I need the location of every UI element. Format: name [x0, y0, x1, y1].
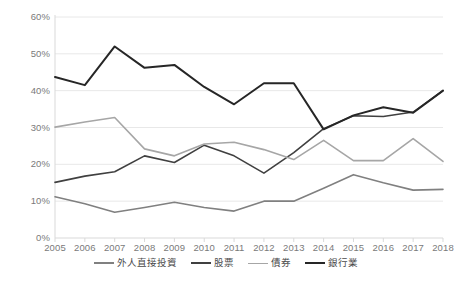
- x-axis-tick-label: 2012: [253, 241, 275, 255]
- y-axis-tick-label: 50%: [4, 49, 50, 59]
- chart-legend: 外人直接投資股票債券銀行業: [0, 255, 451, 271]
- legend-label: 外人直接投資: [117, 257, 177, 269]
- bottom-caption: [2, 272, 302, 282]
- x-axis-tick-label: 2006: [74, 241, 96, 255]
- x-axis-tick-label: 2015: [343, 241, 365, 255]
- y-axis-tick-label: 40%: [4, 86, 50, 96]
- x-axis-tick-label: 2008: [134, 241, 156, 255]
- x-axis-tick-label: 2013: [283, 241, 305, 255]
- series-line-1: [55, 91, 443, 183]
- legend-item-1[interactable]: 股票: [191, 257, 234, 269]
- y-axis-tick-label: 60%: [4, 12, 50, 22]
- x-axis-tick-label: 2018: [432, 241, 454, 255]
- x-axis-tick-label: 2017: [402, 241, 424, 255]
- series-line-0: [55, 175, 443, 213]
- legend-label: 股票: [214, 257, 234, 269]
- x-axis-tick-label: 2014: [313, 241, 335, 255]
- y-axis-tick-label: 20%: [4, 159, 50, 169]
- legend-item-0[interactable]: 外人直接投資: [94, 257, 177, 269]
- legend-item-3[interactable]: 銀行業: [305, 257, 358, 269]
- legend-label: 銀行業: [328, 257, 358, 269]
- x-axis-tick-label: 2010: [193, 241, 215, 255]
- legend-swatch-icon: [94, 262, 114, 264]
- x-axis-tick-label: 2007: [104, 241, 126, 255]
- x-axis-tick-label: 2005: [44, 241, 66, 255]
- legend-item-2[interactable]: 債券: [248, 257, 291, 269]
- legend-label: 債券: [271, 257, 291, 269]
- x-axis-tick-label: 2011: [224, 241, 245, 255]
- legend-swatch-icon: [248, 263, 268, 264]
- y-axis-tick-label: 30%: [4, 123, 50, 133]
- legend-swatch-icon: [191, 262, 211, 264]
- plot-area: [0, 0, 451, 245]
- y-axis-tick-labels: 60%50%40%30%20%10%0%: [0, 0, 50, 245]
- x-axis-tick-label: 2016: [373, 241, 395, 255]
- x-axis-tick-label: 2009: [164, 241, 186, 255]
- legend-swatch-icon: [305, 262, 325, 264]
- y-axis-tick-label: 10%: [4, 196, 50, 206]
- plot-svg: [0, 0, 451, 245]
- series-line-2: [55, 118, 443, 162]
